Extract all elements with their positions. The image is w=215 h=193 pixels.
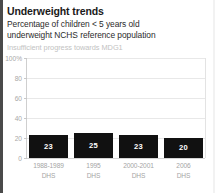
x-axis-label: 1995DHS — [71, 161, 116, 181]
bar-value-label: 25 — [89, 142, 98, 150]
page-title: Underweight trends — [7, 5, 207, 17]
y-axis-tick-label: 40 — [15, 114, 22, 121]
bar[interactable]: 25 — [74, 133, 113, 158]
header: Underweight trends Percentage of childre… — [3, 0, 213, 52]
y-axis-tick-label: 100% — [5, 54, 22, 61]
page-edge-strip-right — [213, 0, 215, 193]
subtitle-line-2: underweight NCHS reference population — [7, 30, 207, 41]
x-axis-labels: 1988-1989DHS1995DHS2000-2001DHS2006DHS — [26, 161, 206, 181]
bar-value-label: 23 — [134, 143, 143, 151]
x-axis-label-period: 2000-2001 — [116, 161, 161, 170]
bar-slot: 20 — [161, 58, 206, 158]
bar[interactable]: 23 — [119, 135, 158, 158]
bar-chart: 020406080100% 23252320 1988-1989DHS1995D… — [3, 53, 213, 193]
bar-slot: 23 — [26, 58, 71, 158]
x-axis-label-source: DHS — [116, 170, 161, 181]
progress-note: Insufficient progress towards MDG1 — [7, 43, 207, 52]
y-axis-tick-label: 0 — [18, 154, 22, 161]
subtitle-line-1: Percentage of children < 5 years old — [7, 19, 207, 30]
bar-slot: 23 — [116, 58, 161, 158]
x-axis-label-source: DHS — [71, 170, 116, 181]
bar-slot: 25 — [71, 58, 116, 158]
bar-series: 23252320 — [26, 58, 206, 158]
x-axis-label: 2006DHS — [161, 161, 206, 181]
bar-value-label: 20 — [179, 144, 188, 152]
y-axis-tick-label: 60 — [15, 94, 22, 101]
x-axis-label-period: 1995 — [71, 161, 116, 170]
x-axis-label-source: DHS — [161, 170, 206, 181]
infographic-card: Underweight trends Percentage of childre… — [0, 0, 215, 193]
y-axis-tick-label: 20 — [15, 134, 22, 141]
y-axis-tick-label: 80 — [15, 74, 22, 81]
x-axis-label-period: 2006 — [161, 161, 206, 170]
x-axis-label-source: DHS — [26, 170, 71, 181]
bar[interactable]: 23 — [29, 135, 68, 158]
bar-value-label: 23 — [44, 143, 53, 151]
bar[interactable]: 20 — [164, 138, 203, 158]
card-content: Underweight trends Percentage of childre… — [3, 0, 213, 193]
x-axis-label: 2000-2001DHS — [116, 161, 161, 181]
x-axis-label-period: 1988-1989 — [26, 161, 71, 170]
x-axis-label: 1988-1989DHS — [26, 161, 71, 181]
